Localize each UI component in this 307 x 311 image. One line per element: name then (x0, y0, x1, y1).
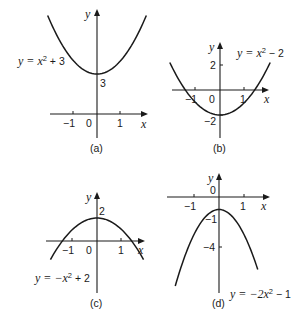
x-tick-label: −1 (185, 93, 197, 105)
origin-label: 0 (209, 93, 215, 105)
x-tick-label: 1 (240, 200, 246, 212)
y-axis-label: y (84, 7, 91, 21)
origin-label: 0 (86, 244, 92, 256)
x-tick-label: −1 (62, 244, 74, 256)
x-tick-label: 1 (240, 93, 246, 105)
y-axis-arrow-icon (217, 42, 223, 49)
x-axis-label: x (263, 92, 270, 106)
x-tick-label: −1 (184, 200, 196, 212)
vertex-label: 2 (99, 205, 105, 217)
origin-label: 0 (210, 184, 216, 196)
y-axis-arrow-icon (94, 9, 100, 16)
x-tick-label: −1 (63, 117, 75, 129)
x-tick-label: 1 (118, 244, 124, 256)
y-tick-label: 2 (210, 59, 216, 71)
origin-label: 0 (86, 117, 92, 129)
caption: (c) (90, 297, 102, 309)
parabola-figure: y x −1 0 1 3 y = x2 + 3 (a) y x −1 0 1 2… (0, 0, 307, 311)
x-axis-label: x (137, 243, 144, 257)
y-axis-arrow-icon (216, 173, 222, 180)
vertex-label: 3 (100, 77, 106, 89)
caption: (d) (212, 297, 225, 309)
y-tick-label: −4 (203, 241, 215, 253)
equation-label: y = x2 − 2 (236, 46, 284, 60)
panel-d: y x 0 −1 1 −1 −4 y = −2x2 − 1 (d) (167, 171, 291, 309)
x-axis-label: x (140, 117, 147, 131)
x-axis-label: x (260, 199, 267, 213)
equation-label: y = x2 + 3 (17, 54, 65, 68)
y-tick-label: −2 (204, 115, 216, 127)
y-axis-label: y (207, 171, 214, 185)
y-axis-arrow-icon (94, 192, 100, 199)
equation-label: y = −x2 + 2 (34, 271, 90, 285)
caption: (a) (90, 142, 103, 154)
y-axis-label: y (208, 40, 215, 54)
panel-b: y x −1 0 1 2 −2 y = x2 − 2 (b) (170, 40, 284, 154)
panel-c: y x −1 0 1 2 y = −x2 + 2 (c) (34, 190, 145, 309)
x-tick-label: 1 (117, 117, 123, 129)
equation-label: y = −2x2 − 1 (229, 287, 291, 301)
y-axis-label: y (85, 190, 92, 204)
caption: (b) (213, 142, 226, 154)
y-tick-label: −1 (205, 213, 217, 225)
panel-a: y x −1 0 1 3 y = x2 + 3 (a) (17, 7, 148, 154)
